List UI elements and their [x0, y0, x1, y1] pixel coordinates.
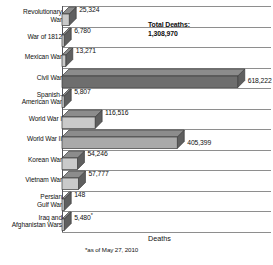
- category-label: Civil War: [0, 74, 62, 81]
- bar-3d: [62, 69, 247, 90]
- war-deaths-bar-chart: Revolutionary WarWar of 1812Mexican WarC…: [0, 0, 273, 265]
- value-label: 618,222: [248, 77, 272, 85]
- category-label: World War I: [0, 115, 62, 122]
- gridline: [62, 232, 271, 233]
- bar-3d: [62, 89, 73, 110]
- value-label: 405,399: [187, 139, 211, 147]
- chart-footnote: *as of May 27, 2010: [85, 246, 138, 253]
- category-label: Iraq and Afghanistan Wars: [0, 214, 62, 229]
- bar-3d: [62, 110, 104, 131]
- value-label: 5,807: [74, 88, 91, 96]
- category-label: Revolutionary War: [0, 8, 62, 23]
- category-label: Mexican War: [0, 53, 62, 60]
- value-label: 13,271: [76, 47, 96, 55]
- bar-3d: [62, 212, 73, 233]
- category-label: Spanish- American War: [0, 91, 62, 106]
- value-label: 54,246: [87, 150, 107, 158]
- category-axis-labels: Revolutionary WarWar of 1812Mexican WarC…: [0, 0, 62, 232]
- value-label: 25,324: [79, 6, 99, 14]
- category-label: Korean War: [0, 156, 62, 163]
- bar-3d: [62, 151, 86, 172]
- x-axis-title: Deaths: [148, 234, 171, 243]
- plot-area: 25,3246,78013,271618,2225,807116,516405,…: [62, 6, 273, 232]
- category-label: War of 1812: [0, 33, 62, 40]
- value-label: 116,516: [105, 109, 128, 117]
- value-label: 148: [74, 191, 85, 199]
- category-label: World War II: [0, 135, 62, 142]
- bar-3d: [62, 7, 78, 28]
- gridline: [62, 211, 271, 212]
- category-label: Vietnam War: [0, 176, 62, 183]
- value-label: 5,480*: [74, 211, 93, 222]
- footnote-marker: *: [91, 212, 93, 218]
- bar-3d: [62, 28, 73, 49]
- bar-3d: [62, 171, 87, 192]
- total-deaths-annotation: Total Deaths: 1,308,970: [148, 21, 190, 38]
- bar-3d: [62, 192, 73, 213]
- gridline: [62, 191, 271, 192]
- value-label: 6,780: [74, 27, 91, 35]
- bar-3d: [62, 48, 75, 69]
- value-label: 57,777: [88, 170, 108, 178]
- category-label: Persian Gulf War: [0, 193, 62, 208]
- bar-3d: [62, 130, 186, 151]
